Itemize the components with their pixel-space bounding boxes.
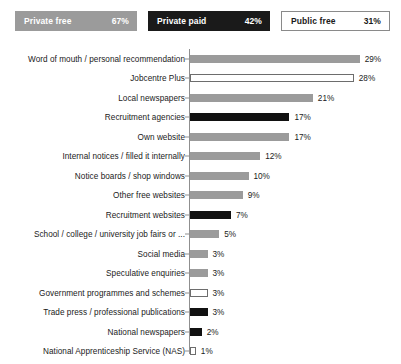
axis-tick	[185, 273, 189, 274]
bar-value-label: 5%	[224, 230, 236, 239]
bar-category-label: Trade press / professional publications	[43, 308, 185, 317]
bar-row: Local newspapers21%	[0, 88, 401, 108]
bar-value-label: 2%	[207, 327, 219, 336]
axis-tick	[185, 331, 189, 332]
bar-value-label: 21%	[318, 93, 334, 102]
bar-value-label: 17%	[294, 132, 310, 141]
axis-tick	[185, 312, 189, 313]
bar-row: School / college / university job fairs …	[0, 225, 401, 245]
bar	[190, 211, 231, 219]
bar-row: Recruitment websites7%	[0, 205, 401, 225]
horizontal-bar-chart: Word of mouth / personal recommendation2…	[0, 44, 401, 364]
bar	[190, 269, 208, 277]
bar-category-label: National newspapers	[108, 327, 185, 336]
bar-row: National newspapers2%	[0, 322, 401, 342]
bar-row: Own website17%	[0, 127, 401, 147]
bar-value-label: 3%	[213, 288, 225, 297]
bar-value-label: 3%	[213, 249, 225, 258]
bar-category-label: School / college / university job fairs …	[34, 230, 185, 239]
bar-row: Recruitment agencies17%	[0, 108, 401, 128]
bar-row: Other free websites9%	[0, 186, 401, 206]
bar-value-label: 7%	[236, 210, 248, 219]
bar	[190, 74, 354, 82]
bar-category-label: Own website	[138, 132, 185, 141]
bar-category-label: Internal notices / filled it internally	[62, 152, 185, 161]
bar-value-label: 1%	[201, 347, 213, 356]
bar-category-label: Speculative enquiries	[106, 269, 185, 278]
axis-tick	[185, 253, 189, 254]
axis-tick	[185, 351, 189, 352]
bar	[190, 250, 208, 258]
bar-value-label: 3%	[213, 308, 225, 317]
bar-value-label: 10%	[254, 171, 270, 180]
bar-category-label: Recruitment agencies	[105, 113, 185, 122]
axis-tick	[185, 136, 189, 137]
legend-label-public-free: Public free	[291, 16, 336, 26]
bar	[190, 94, 313, 102]
bar-row: Jobcentre Plus28%	[0, 69, 401, 89]
chart-legend: Private free 67% Private paid 42% Public…	[0, 0, 401, 44]
bar-category-label: Jobcentre Plus	[130, 74, 185, 83]
bar-row: Speculative enquiries3%	[0, 264, 401, 284]
bar-category-label: Other free websites	[113, 191, 185, 200]
legend-label-private-free: Private free	[24, 16, 72, 26]
axis-tick	[185, 156, 189, 157]
legend-item-private-free: Private free 67%	[15, 11, 137, 31]
legend-item-public-free: Public free 31%	[281, 11, 390, 31]
legend-value-private-paid: 42%	[245, 16, 262, 26]
bar-value-label: 3%	[213, 269, 225, 278]
axis-tick	[185, 78, 189, 79]
bar-value-label: 29%	[365, 54, 381, 63]
bar	[190, 172, 249, 180]
bar-category-label: Recruitment websites	[106, 210, 185, 219]
bar	[190, 230, 219, 238]
bar-category-label: Social media	[138, 249, 185, 258]
legend-label-private-paid: Private paid	[157, 16, 206, 26]
bar	[190, 113, 289, 121]
axis-tick	[185, 234, 189, 235]
bar-row: Word of mouth / personal recommendation2…	[0, 49, 401, 69]
axis-tick	[185, 195, 189, 196]
bar-row: Trade press / professional publications3…	[0, 303, 401, 323]
axis-tick	[185, 97, 189, 98]
bar	[190, 328, 202, 336]
bar-category-label: National Apprenticeship Service (NAS)	[43, 347, 185, 356]
legend-item-private-paid: Private paid 42%	[148, 11, 270, 31]
bar-row: National Apprenticeship Service (NAS)1%	[0, 342, 401, 362]
axis-tick	[185, 175, 189, 176]
bar	[190, 191, 243, 199]
bar	[190, 347, 196, 355]
bar-row: Internal notices / filled it internally1…	[0, 147, 401, 167]
bar	[190, 308, 208, 316]
legend-value-public-free: 31%	[364, 16, 381, 26]
legend-value-private-free: 67%	[112, 16, 129, 26]
axis-tick	[185, 58, 189, 59]
axis-tick	[185, 117, 189, 118]
axis-tick	[185, 292, 189, 293]
bar-value-label: 12%	[265, 152, 281, 161]
bar-category-label: Local newspapers	[118, 93, 185, 102]
bar-value-label: 17%	[294, 113, 310, 122]
bar	[190, 289, 208, 297]
bar-category-label: Notice boards / shop windows	[75, 171, 185, 180]
bar-row: Notice boards / shop windows10%	[0, 166, 401, 186]
bar-value-label: 28%	[359, 74, 375, 83]
bar-row: Government programmes and schemes3%	[0, 283, 401, 303]
bar	[190, 152, 260, 160]
bar-category-label: Word of mouth / personal recommendation	[28, 54, 185, 63]
bar	[190, 55, 360, 63]
bar	[190, 133, 289, 141]
bar-row: Social media3%	[0, 244, 401, 264]
bar-value-label: 9%	[248, 191, 260, 200]
axis-tick	[185, 214, 189, 215]
bar-category-label: Government programmes and schemes	[39, 288, 185, 297]
